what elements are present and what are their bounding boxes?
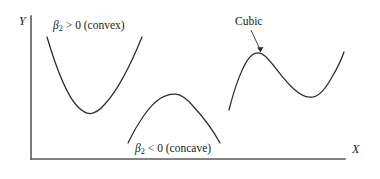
convex-parabola-curve xyxy=(47,37,142,114)
cubic-curve xyxy=(229,52,344,110)
figure-canvas: Y X β2 > 0 (convex) β2 < 0 (concave) Cub… xyxy=(0,0,380,179)
y-axis-label: Y xyxy=(19,15,26,27)
concave-beta-symbol: β2 xyxy=(135,142,145,154)
convex-annotation: β2 > 0 (convex) xyxy=(53,20,125,33)
convex-beta-symbol: β2 xyxy=(53,19,63,31)
concave-shape-word: (concave) xyxy=(166,142,211,154)
concave-parabola-curve xyxy=(128,94,220,143)
cubic-arrow-icon xyxy=(257,47,263,53)
concave-annotation: β2 < 0 (concave) xyxy=(135,143,211,156)
x-axis-label: X xyxy=(352,143,359,155)
cubic-annotation: Cubic xyxy=(235,16,262,28)
convex-shape-word: (convex) xyxy=(84,19,125,31)
